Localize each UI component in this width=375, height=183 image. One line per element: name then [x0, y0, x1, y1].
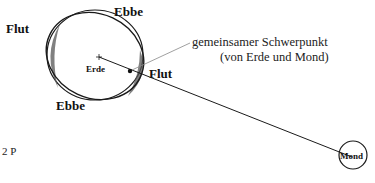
earth-circle	[47, 10, 143, 100]
tide-diagram: Flut Ebbe Flut Ebbe Erde Mond gemeinsame…	[0, 0, 375, 183]
label-schwerpunkt-line2: (von Erde und Mond)	[220, 50, 329, 64]
tide-bulge-left	[50, 24, 60, 88]
barycenter-dot	[128, 69, 132, 73]
earth-moon-line	[99, 57, 352, 157]
label-schwerpunkt-line1: gemeinsamer Schwerpunkt	[192, 35, 328, 49]
label-mond: Mond	[340, 151, 363, 161]
label-ebbe-top: Ebbe	[114, 4, 143, 19]
page-marker: 2 P	[2, 145, 16, 157]
label-ebbe-bottom: Ebbe	[56, 98, 85, 113]
label-flut-right: Flut	[149, 66, 173, 81]
label-flut-left: Flut	[6, 21, 30, 36]
label-erde: Erde	[86, 64, 105, 74]
